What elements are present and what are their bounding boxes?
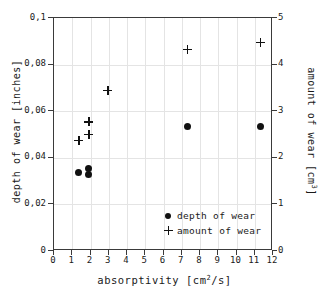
y-tick-label-right: 1 [278,199,283,208]
y-tick-label-left: 0,06 [24,106,46,115]
x-tick-label: 1 [61,256,81,265]
tick-mark-left [48,64,53,65]
data-point-circle [257,123,264,130]
x-tick-label: 12 [262,256,282,265]
x-tick-label: 0 [43,256,63,265]
gridline-vertical [145,18,146,249]
data-point-plus [74,136,83,145]
legend-item: amount of wear [163,223,261,238]
x-tick-label: 11 [244,256,264,265]
tick-mark-left [48,17,53,18]
legend-label: depth of wear [177,208,255,223]
x-axis-label-name: absorptivity [97,274,179,286]
tick-mark-left [48,110,53,111]
gridline-vertical [127,18,128,249]
legend-marker-glyph [165,213,171,219]
data-point-plus [84,117,93,126]
data-point-plus [103,86,112,95]
legend-label: amount of wear [177,223,261,238]
y-tick-label-right: 5 [278,13,283,22]
plus-marker-icon [163,225,177,236]
x-axis-unit-pre: [cm [186,274,206,286]
data-point-circle [85,171,92,178]
y-tick-label-left: 0,1 [30,13,46,22]
data-point-plus [256,38,265,47]
x-tick-label: 2 [80,256,100,265]
data-point-plus [84,130,93,139]
x-tick-label: 10 [226,256,246,265]
y-tick-label-left: 0 [41,246,46,255]
tick-mark-right [272,64,277,65]
y-axis-right-unit-post: ] [306,189,317,196]
y-axis-left-label: depth of wear [inches] [11,32,22,232]
y-axis-right-label-name: amount of wear [306,67,317,158]
y-tick-label-left: 0,04 [24,152,46,161]
data-point-circle [75,169,82,176]
legend-marker-glyph [164,226,173,235]
gridline-vertical [72,18,73,249]
y-tick-label-left: 0,02 [24,199,46,208]
gridline-vertical [109,18,110,249]
x-tick-label: 8 [189,256,209,265]
y-tick-label-right: 0 [278,246,283,255]
tick-mark-left [48,203,53,204]
y-axis-right-label: amount of wear [cm3] [306,32,317,232]
legend-item: depth of wear [163,208,261,223]
x-tick-label: 4 [116,256,136,265]
x-axis-label: absorptivity [cm2/s] [0,274,329,286]
gridline-horizontal [54,158,271,159]
gridline-horizontal [54,111,271,112]
tick-mark-right [272,203,277,204]
legend: depth of wearamount of wear [163,208,261,238]
circle-marker-icon [163,210,177,221]
tick-mark-right [272,17,277,18]
y-tick-label-right: 2 [278,152,283,161]
x-tick-label: 6 [153,256,173,265]
x-tick-label: 9 [207,256,227,265]
y-axis-right-unit-pre: [cm [306,165,317,185]
gridline-horizontal [54,65,271,66]
scatter-plot-figure: 00,020,040,060,080,1 012345 012345678910… [0,0,329,299]
tick-mark-right [272,110,277,111]
tick-mark-left [48,157,53,158]
y-tick-label-right: 3 [278,106,283,115]
tick-mark-right [272,157,277,158]
y-tick-label-right: 4 [278,59,283,68]
data-point-plus [183,45,192,54]
x-tick-label: 5 [134,256,154,265]
data-point-circle [184,123,191,130]
x-tick-label: 7 [171,256,191,265]
gridline-horizontal [54,204,271,205]
y-tick-label-left: 0,08 [24,59,46,68]
x-axis-unit-post: /s] [211,274,231,286]
x-tick-label: 3 [98,256,118,265]
